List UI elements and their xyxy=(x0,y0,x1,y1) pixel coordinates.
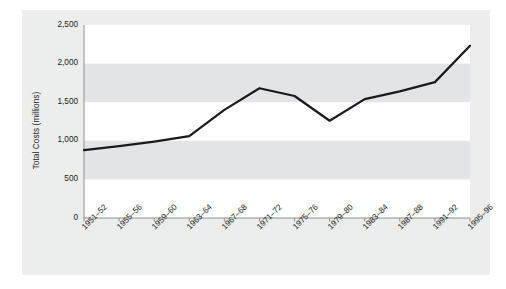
y-tick-label: 1,000 xyxy=(40,135,78,144)
band xyxy=(84,64,470,103)
line-chart-canvas xyxy=(0,0,506,289)
y-tick-label: 2,000 xyxy=(40,58,78,67)
y-tick-label: 0 xyxy=(40,213,78,222)
band xyxy=(84,141,470,180)
y-tick-label: 1,500 xyxy=(40,97,78,106)
y-tick-label: 2,500 xyxy=(40,20,78,29)
chart-figure: Total Costs (millions) 05001,0001,5002,0… xyxy=(0,0,506,289)
plot-area-background xyxy=(84,25,470,218)
y-tick-label: 500 xyxy=(40,174,78,183)
